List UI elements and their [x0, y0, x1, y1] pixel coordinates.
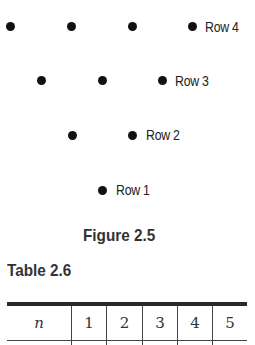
- row-label: Row 1: [116, 182, 150, 198]
- dot: [188, 22, 197, 31]
- table-caption: Table 2.6: [7, 261, 71, 281]
- row-label: Row 4: [205, 19, 239, 35]
- dot: [128, 22, 137, 31]
- row-label: Row 3: [175, 73, 209, 89]
- table-header-cell: 5: [213, 306, 247, 340]
- dot: [128, 131, 137, 140]
- table-header-cell: n: [7, 306, 71, 340]
- table-header-cell: 3: [143, 306, 177, 340]
- dot: [67, 22, 76, 31]
- table-header-cell: 1: [72, 306, 106, 340]
- table-header-cell: 2: [107, 306, 142, 340]
- dot: [68, 131, 77, 140]
- row-label: Row 2: [146, 127, 180, 143]
- figure-caption: Figure 2.5: [83, 226, 155, 246]
- dot: [6, 22, 15, 31]
- dot: [158, 76, 167, 85]
- table-header-rule: [7, 340, 247, 341]
- dot: [98, 76, 107, 85]
- table-header-cell: 4: [178, 306, 212, 340]
- dot: [37, 76, 46, 85]
- dot: [98, 186, 107, 195]
